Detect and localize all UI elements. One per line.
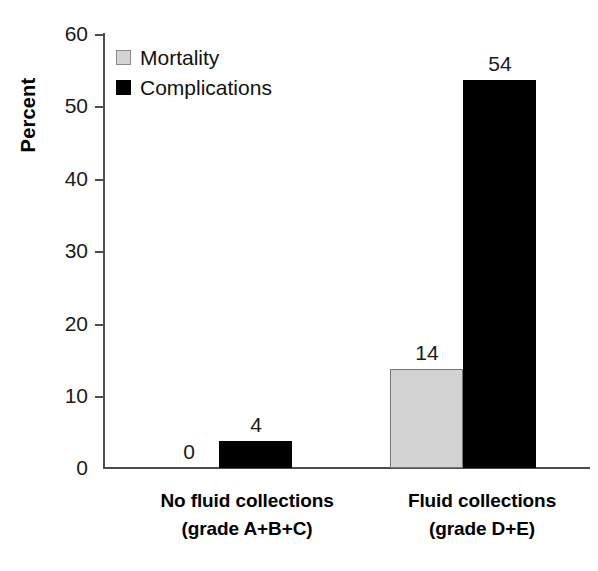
bar-group2-complications <box>463 80 536 468</box>
bar-group1-complications <box>219 441 292 468</box>
y-tick-label: 10 <box>44 385 88 406</box>
y-tick-mark <box>95 396 104 398</box>
y-tick-label: 50 <box>44 95 88 116</box>
x-category-label-group2-line2: (grade D+E) <box>372 515 592 543</box>
y-tick-label: 60 <box>44 23 88 44</box>
x-category-label-group1: No fluid collections (grade A+B+C) <box>112 487 382 542</box>
plot-area: 0 4 14 54 <box>104 33 590 468</box>
bar-value-group2-mortality: 14 <box>396 342 458 363</box>
y-tick-mark <box>95 34 104 36</box>
y-axis-title: Percent <box>8 50 48 180</box>
bar-value-group1-mortality: 0 <box>159 441 219 462</box>
bar-group2-mortality <box>390 369 463 468</box>
x-category-label-group1-line2: (grade A+B+C) <box>112 515 382 543</box>
x-category-label-group2: Fluid collections (grade D+E) <box>372 487 592 542</box>
y-tick-label: 20 <box>44 313 88 334</box>
x-category-label-group1-line1: No fluid collections <box>112 487 382 515</box>
y-tick-mark <box>95 179 104 181</box>
y-tick-label: 0 <box>44 457 88 478</box>
y-tick-label: 40 <box>44 168 88 189</box>
y-tick-mark <box>95 251 104 253</box>
y-tick-mark <box>95 324 104 326</box>
bar-chart-figure: Percent 60 50 40 30 20 10 0 Mortality <box>0 0 598 571</box>
bar-value-group1-complications: 4 <box>225 414 287 435</box>
y-tick-label: 30 <box>44 240 88 261</box>
bar-value-group2-complications: 54 <box>469 53 531 74</box>
y-tick-mark <box>95 106 104 108</box>
x-category-label-group2-line1: Fluid collections <box>372 487 592 515</box>
